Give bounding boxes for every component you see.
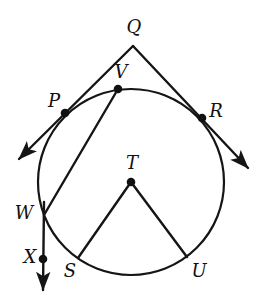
point-dot-R bbox=[198, 114, 207, 123]
label-X: X bbox=[24, 248, 37, 266]
label-T: T bbox=[126, 154, 138, 172]
point-dot-X bbox=[39, 255, 48, 264]
label-U: U bbox=[191, 262, 206, 280]
point-dot-V bbox=[114, 85, 123, 94]
label-R: R bbox=[209, 102, 223, 120]
label-V: V bbox=[115, 63, 128, 81]
radius-TU bbox=[131, 182, 187, 257]
label-Q: Q bbox=[127, 18, 142, 36]
point-dot-T bbox=[127, 178, 136, 187]
label-W: W bbox=[15, 204, 34, 222]
ray-WX-down bbox=[43, 202, 44, 290]
ray-through-R bbox=[133, 46, 248, 168]
geometry-figure: Q V P R T W X S U bbox=[0, 0, 273, 305]
label-P: P bbox=[48, 92, 60, 110]
point-dot-P bbox=[61, 109, 70, 118]
radius-TS bbox=[78, 182, 131, 258]
label-S: S bbox=[64, 262, 76, 280]
